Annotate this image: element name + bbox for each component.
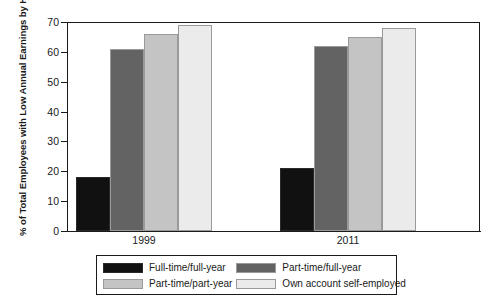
y-tick-70 <box>61 22 67 23</box>
legend-swatch-0 <box>103 263 143 273</box>
legend-label-0: Full-time/full-year <box>149 262 226 273</box>
legend-label-2: Part-time/part-year <box>149 278 232 289</box>
y-tick-label-70: 70 <box>37 17 59 27</box>
legend-swatch-2 <box>103 279 143 289</box>
x-axis-line <box>67 231 481 232</box>
chart-legend: Full-time/full-yearPart-time/full-yearPa… <box>96 255 397 295</box>
legend-label-1: Part-time/full-year <box>282 262 361 273</box>
y-tick-20 <box>61 171 67 172</box>
y-axis-title: % of Total Employees with Low Annual Ear… <box>17 4 29 236</box>
legend-item-part-time-full-year: Part-time/full-year <box>236 260 405 275</box>
legend-swatch-1 <box>236 263 276 273</box>
bar-2011-part-time-part-year <box>348 37 382 231</box>
x-axis-label-1999: 1999 <box>76 234 212 246</box>
y-tick-label-30: 30 <box>37 136 59 146</box>
y-tick-label-60: 60 <box>37 47 59 57</box>
bar-2011-full-time-full-year <box>280 168 314 231</box>
legend-label-3: Own account self-employed <box>282 278 405 289</box>
y-tick-label-20: 20 <box>37 166 59 176</box>
legend-item-part-time-part-year: Part-time/part-year <box>103 276 232 291</box>
legend-item-own-account-self-employed: Own account self-employed <box>236 276 405 291</box>
y-tick-label-40: 40 <box>37 107 59 117</box>
y-tick-60 <box>61 52 67 53</box>
y-tick-50 <box>61 82 67 83</box>
y-tick-label-0: 0 <box>37 226 59 236</box>
bars-container <box>68 22 480 231</box>
bar-1999-part-time-part-year <box>144 34 178 231</box>
x-axis-label-2011: 2011 <box>280 234 416 246</box>
bar-chart-figure: % of Total Employees with Low Annual Ear… <box>0 0 490 303</box>
y-tick-label-10: 10 <box>37 196 59 206</box>
bar-2011-part-time-full-year <box>314 46 348 231</box>
legend-item-full-time-full-year: Full-time/full-year <box>103 260 232 275</box>
legend-swatch-3 <box>236 279 276 289</box>
y-tick-40 <box>61 112 67 113</box>
bar-2011-own-account-self-employed <box>382 28 416 231</box>
y-tick-10 <box>61 201 67 202</box>
y-tick-label-50: 50 <box>37 77 59 87</box>
y-tick-0 <box>61 231 67 232</box>
bar-1999-part-time-full-year <box>110 49 144 231</box>
y-tick-30 <box>61 141 67 142</box>
bar-1999-own-account-self-employed <box>178 25 212 231</box>
bar-1999-full-time-full-year <box>76 177 110 231</box>
